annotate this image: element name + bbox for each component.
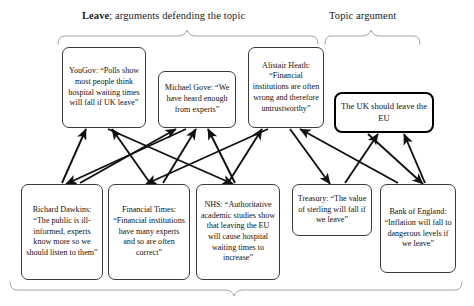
node-nhs-text: NHS: “Authoritative academic studies sho… [200, 200, 276, 264]
node-yougov-text: YouGov: “Polls show most people think ho… [66, 66, 142, 109]
node-michael-gove-text: Michael Gove: “We have heard enough from… [162, 83, 232, 115]
node-richard-dawkins-text: Richard Dawkins: “The public is ill-info… [25, 205, 99, 258]
diagram-canvas: Leave; arguments defending the topic Top… [0, 0, 474, 306]
node-nhs[interactable]: NHS: “Authoritative academic studies sho… [196, 184, 280, 280]
node-yougov[interactable]: YouGov: “Polls show most people think ho… [62, 47, 146, 128]
edge-dawkins-yougov [62, 129, 86, 183]
node-treasury[interactable]: Treasury: “The value of sterling will fa… [292, 184, 372, 236]
topic-brace-path [325, 30, 420, 44]
node-financial-times-text: Financial Times: “Financial institutions… [112, 205, 186, 258]
node-topic-text: The UK should leave the EU [339, 101, 429, 124]
node-alistair-heath-text: Alistair Heath: “Financial institutions … [252, 61, 320, 114]
node-treasury-text: Treasury: “The value of sterling will fa… [296, 194, 368, 226]
bottom-brace-path [10, 282, 462, 296]
edge-boe-heath [300, 129, 398, 183]
edge-nhs-heath [228, 129, 262, 183]
edge-ft-yougov [112, 129, 150, 183]
leave-brace-label: Leave; arguments defending the topic [82, 10, 245, 21]
node-topic-uk-leave-eu[interactable]: The UK should leave the EU [334, 92, 434, 133]
node-bank-of-england[interactable]: Bank of England: “Inflation will fall to… [380, 184, 456, 273]
node-bank-of-england-text: Bank of England: “Inflation will fall to… [384, 207, 452, 250]
topic-brace-label: Topic argument [329, 10, 396, 21]
node-alistair-heath[interactable]: Alistair Heath: “Financial institutions … [248, 47, 324, 128]
edge-treasury-topic [345, 134, 378, 183]
node-michael-gove[interactable]: Michael Gove: “We have heard enough from… [158, 71, 236, 128]
node-financial-times[interactable]: Financial Times: “Financial institutions… [108, 184, 190, 280]
edge-heath-ft [146, 129, 268, 184]
leave-brace-path [58, 30, 318, 44]
edge-heath-treasury [290, 129, 330, 184]
node-richard-dawkins[interactable]: Richard Dawkins: “The public is ill-info… [21, 184, 103, 280]
